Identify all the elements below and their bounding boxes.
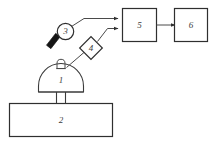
component-5-label: 5 bbox=[137, 20, 142, 30]
component-4-label: 4 bbox=[89, 43, 94, 53]
connection-1-to-4-segment bbox=[67, 52, 85, 68]
component-3-label: 3 bbox=[62, 26, 68, 36]
component-2-label: 2 bbox=[59, 115, 64, 125]
diagram-svg: 2 1 4 3 bbox=[0, 0, 216, 143]
component-6-label: 6 bbox=[189, 20, 194, 30]
connection-4-to-5-arrow bbox=[98, 29, 119, 42]
diagram-canvas: 2 1 4 3 bbox=[0, 0, 216, 143]
component-1-label: 1 bbox=[59, 75, 64, 85]
component-5-processing-unit[interactable]: 5 bbox=[123, 9, 157, 42]
component-3-sensor-head[interactable]: 3 bbox=[46, 23, 73, 48]
connection-1-to-4-line bbox=[67, 52, 85, 68]
connection-3-to-5-arrow bbox=[72, 19, 119, 27]
connection-4-to-5-path bbox=[98, 29, 119, 42]
component-1-dome-chamber[interactable]: 1 bbox=[39, 59, 84, 103]
component-6-output-unit[interactable]: 6 bbox=[175, 9, 208, 42]
component-2-base-platform[interactable]: 2 bbox=[10, 104, 113, 137]
connection-3-to-5-path bbox=[72, 19, 119, 27]
